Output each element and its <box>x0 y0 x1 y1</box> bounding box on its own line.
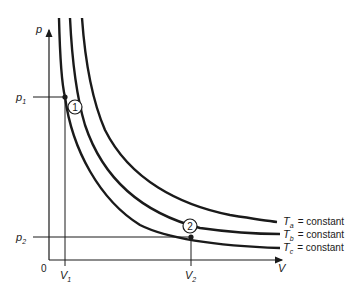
isotherm-tc <box>59 18 280 248</box>
pv-diagram: 1 2 p V 0 p1 p2 V1 V2 Ta= constant Tb= c… <box>0 0 354 295</box>
x-axis-label: V <box>278 262 287 274</box>
v1-label: V1 <box>60 269 71 283</box>
p1-label: p1 <box>15 91 26 105</box>
y-axis-label: p <box>35 23 42 35</box>
origin-label: 0 <box>41 263 47 274</box>
legend-tb: Tb= constant <box>283 228 344 242</box>
isotherm-ta <box>82 18 277 222</box>
point-2-label: 2 <box>187 221 193 232</box>
legend-tc: Tc= constant <box>283 241 344 255</box>
state-point-2 <box>188 234 193 239</box>
isotherm-tb <box>70 18 280 234</box>
legend-ta: Ta= constant <box>283 215 344 229</box>
p2-label: p2 <box>15 231 26 245</box>
v2-label: V2 <box>185 269 196 283</box>
point-1-label: 1 <box>72 102 78 113</box>
state-point-1 <box>62 94 67 99</box>
